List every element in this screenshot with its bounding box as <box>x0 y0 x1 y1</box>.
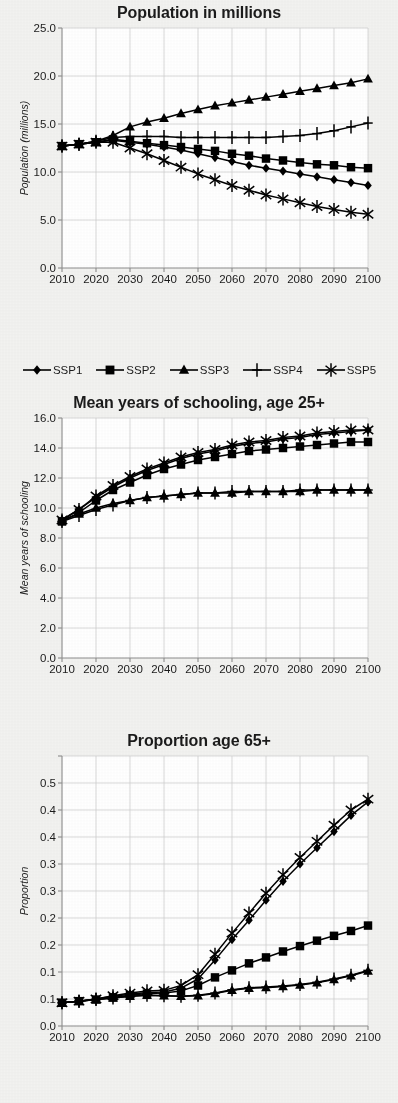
data-point-square <box>313 936 321 944</box>
data-point-square <box>245 151 253 159</box>
data-point-square <box>364 164 372 172</box>
x-tick-label: 2080 <box>287 273 313 285</box>
plot-area-schooling: Mean years of schooling 0.02.04.06.08.01… <box>0 412 398 682</box>
legend-marker-plus <box>242 362 272 378</box>
data-point-square <box>262 953 270 961</box>
data-point-square <box>364 438 372 446</box>
data-point-square <box>279 444 287 452</box>
legend-item-SSP1: SSP1 <box>22 362 82 378</box>
y-tick-label: 14.0 <box>34 442 56 454</box>
chart-svg-population <box>0 22 398 290</box>
legend-label: SSP5 <box>347 364 376 376</box>
x-tick-label: 2090 <box>321 273 347 285</box>
legend-marker-diamond <box>22 362 52 378</box>
x-tick-label: 2090 <box>321 663 347 675</box>
data-point-square <box>211 147 219 155</box>
x-tick-label: 2050 <box>185 663 211 675</box>
x-tick-label: 2040 <box>151 663 177 675</box>
y-tick-label: 5.0 <box>40 214 56 226</box>
y-tick-label: 0.3 <box>40 885 56 897</box>
x-tick-label: 2090 <box>321 1031 347 1043</box>
x-tick-label: 2050 <box>185 273 211 285</box>
chart-panel-schooling: Mean years of schooling, age 25+ Mean ye… <box>0 392 398 720</box>
x-tick-label: 2010 <box>49 273 75 285</box>
y-axis-label-population: Population (millions) <box>18 101 30 196</box>
x-tick-label: 2030 <box>117 273 143 285</box>
data-point-square <box>296 942 304 950</box>
x-tick-label: 2080 <box>287 663 313 675</box>
data-point-square <box>330 439 338 447</box>
x-tick-label: 2100 <box>355 273 381 285</box>
x-tick-label: 2060 <box>219 273 245 285</box>
data-point-square <box>245 959 253 967</box>
y-tick-label: 12.0 <box>34 472 56 484</box>
legend-item-SSP5: SSP5 <box>316 362 376 378</box>
x-tick-label: 2010 <box>49 1031 75 1043</box>
data-point-square <box>211 973 219 981</box>
data-point-square <box>262 154 270 162</box>
x-tick-label: 2100 <box>355 1031 381 1043</box>
x-tick-label: 2030 <box>117 1031 143 1043</box>
chart-svg-schooling <box>0 412 398 682</box>
y-tick-label: 25.0 <box>34 22 56 34</box>
x-tick-label: 2070 <box>253 1031 279 1043</box>
legend-item-SSP2: SSP2 <box>95 362 155 378</box>
chart-panel-population: Population in millions Population (milli… <box>0 0 398 352</box>
legend-label: SSP3 <box>200 364 229 376</box>
data-point-square <box>313 160 321 168</box>
legend-label: SSP1 <box>53 364 82 376</box>
legend-marker-triangle <box>169 362 199 378</box>
x-tick-label: 2040 <box>151 273 177 285</box>
data-point-diamond <box>33 365 41 375</box>
legend-label: SSP4 <box>273 364 302 376</box>
data-point-square <box>279 156 287 164</box>
chart-panel-proportion65: Proportion age 65+ Proportion 0.00.10.10… <box>0 726 398 1103</box>
y-tick-label: 10.0 <box>34 502 56 514</box>
y-tick-label: 0.1 <box>40 993 56 1005</box>
data-point-square <box>279 947 287 955</box>
x-tick-label: 2070 <box>253 663 279 675</box>
data-point-square <box>347 438 355 446</box>
chart-title-schooling: Mean years of schooling, age 25+ <box>0 392 398 412</box>
plot-area-proportion65: Proportion 0.00.10.10.20.20.30.30.40.40.… <box>0 750 398 1050</box>
data-point-square <box>364 921 372 929</box>
data-point-plus <box>252 363 262 377</box>
data-point-square <box>296 158 304 166</box>
y-axis-label-proportion65: Proportion <box>18 867 30 915</box>
chart-title-population: Population in millions <box>0 0 398 22</box>
y-axis-label-schooling: Mean years of schooling <box>18 481 30 595</box>
y-tick-label: 0.4 <box>40 804 56 816</box>
y-tick-label: 8.0 <box>40 532 56 544</box>
data-point-square <box>330 932 338 940</box>
x-tick-label: 2070 <box>253 273 279 285</box>
data-point-square <box>330 161 338 169</box>
legend: SSP1SSP2SSP3SSP4SSP5 <box>0 352 398 388</box>
x-axis-ticks-population: 2010202020302040205020602070208020902100 <box>0 273 398 291</box>
y-tick-label: 0.3 <box>40 858 56 870</box>
legend-item-SSP4: SSP4 <box>242 362 302 378</box>
y-tick-label: 0.5 <box>40 777 56 789</box>
x-tick-label: 2020 <box>83 273 109 285</box>
legend-marker-asterisk <box>316 362 346 378</box>
x-tick-label: 2100 <box>355 663 381 675</box>
data-point-square <box>177 143 185 151</box>
x-axis-ticks-schooling: 2010202020302040205020602070208020902100 <box>0 663 398 681</box>
data-point-square <box>194 981 202 989</box>
chart-title-proportion65: Proportion age 65+ <box>0 726 398 750</box>
data-point-square <box>106 366 115 375</box>
data-point-square <box>347 927 355 935</box>
data-point-square <box>296 442 304 450</box>
x-tick-label: 2080 <box>287 1031 313 1043</box>
y-tick-label: 15.0 <box>34 118 56 130</box>
x-tick-label: 2010 <box>49 663 75 675</box>
y-tick-label: 4.0 <box>40 592 56 604</box>
legend-label: SSP2 <box>126 364 155 376</box>
legend-items: SSP1SSP2SSP3SSP4SSP5 <box>0 352 398 388</box>
plot-area-population: Population (millions) 0.05.010.015.020.0… <box>0 22 398 290</box>
x-tick-label: 2060 <box>219 663 245 675</box>
data-point-square <box>194 145 202 153</box>
x-tick-label: 2030 <box>117 663 143 675</box>
y-tick-label: 0.4 <box>40 831 56 843</box>
data-point-square <box>347 163 355 171</box>
x-tick-label: 2020 <box>83 1031 109 1043</box>
